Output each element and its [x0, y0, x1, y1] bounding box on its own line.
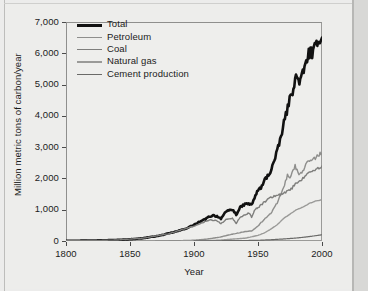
y-tick-mark	[62, 210, 66, 211]
x-tick-label: 1850	[100, 248, 160, 259]
series-line-coal	[66, 166, 322, 241]
y-tick-mark	[62, 147, 66, 148]
legend-line-swatch-icon	[77, 68, 102, 80]
x-axis-title: Year	[66, 266, 322, 277]
y-tick-mark	[62, 116, 66, 117]
y-tick-label: 3,000	[35, 141, 59, 152]
legend-item-petroleum[interactable]: Petroleum	[77, 30, 189, 42]
legend-line-swatch-icon	[77, 55, 102, 67]
frame-top-edge	[4, 3, 362, 4]
legend-item-coal[interactable]: Coal	[77, 43, 189, 55]
legend-item-label: Cement production	[107, 68, 189, 80]
chart-legend: TotalPetroleumCoalNatural gasCement prod…	[77, 18, 189, 80]
y-tick-label: 1,000	[35, 203, 59, 214]
series-line-petroleum	[156, 152, 322, 241]
x-tick-mark	[130, 242, 131, 246]
y-axis-title: Million metric tons of carbon/year	[12, 25, 23, 225]
x-tick-label: 1800	[36, 248, 96, 259]
y-tick-label: 6,000	[35, 47, 59, 58]
x-tick-mark	[258, 242, 259, 246]
y-tick-mark	[62, 85, 66, 86]
x-tick-label: 1950	[228, 248, 288, 259]
y-tick-label: 5,000	[35, 78, 59, 89]
legend-item-label: Coal	[107, 43, 127, 55]
x-tick-mark	[194, 242, 195, 246]
legend-item-label: Total	[107, 18, 128, 30]
x-tick-mark	[322, 242, 323, 246]
y-tick-mark	[62, 22, 66, 23]
chart-figure: 01,0002,0003,0004,0005,0006,0007,000 180…	[0, 0, 368, 291]
legend-item-label: Natural gas	[107, 55, 157, 67]
y-tick-mark	[62, 53, 66, 54]
legend-item-natural-gas[interactable]: Natural gas	[77, 55, 189, 67]
legend-item-cement-production[interactable]: Cement production	[77, 68, 189, 80]
legend-line-swatch-icon	[77, 31, 102, 43]
x-tick-label: 1900	[164, 248, 224, 259]
frame-right-edge	[352, 0, 354, 291]
x-tick-mark	[66, 242, 67, 246]
y-tick-label: 4,000	[35, 109, 59, 120]
frame-outer-margin	[354, 0, 368, 291]
legend-item-label: Petroleum	[107, 31, 151, 43]
legend-line-swatch-icon	[77, 18, 102, 30]
y-tick-label: 7,000	[35, 16, 59, 27]
legend-item-total[interactable]: Total	[77, 18, 189, 30]
frame-left-edge	[4, 0, 5, 291]
y-tick-mark	[62, 178, 66, 179]
y-tick-label: 2,000	[35, 172, 59, 183]
y-tick-label: 0	[54, 235, 59, 246]
x-tick-label: 2000	[292, 248, 352, 259]
legend-line-swatch-icon	[77, 43, 102, 55]
